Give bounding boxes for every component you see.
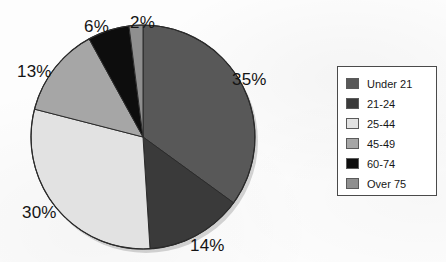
legend-color-swatch <box>346 178 359 189</box>
pie-slice-value-label: 30% <box>22 203 57 223</box>
pie-slice-value-label: 14% <box>190 236 225 256</box>
legend-color-swatch <box>346 138 359 149</box>
legend-item[interactable]: Over 75 <box>346 174 436 193</box>
legend-item-label: 45-49 <box>367 138 395 150</box>
pie-chart-figure: 35%14%30%13%6%2% Under 2121-2425-4445-49… <box>0 0 446 262</box>
legend-item-label: 60-74 <box>367 158 395 170</box>
legend-item-label: Over 75 <box>367 178 406 190</box>
legend-color-swatch <box>346 78 359 89</box>
legend-color-swatch <box>346 158 359 169</box>
chart-legend: Under 2121-2425-4445-4960-74Over 75 <box>337 66 437 196</box>
legend-item[interactable]: 21-24 <box>346 94 436 113</box>
legend-item-label: 21-24 <box>367 98 395 110</box>
legend-item[interactable]: 25-44 <box>346 114 436 133</box>
legend-item-label: 25-44 <box>367 118 395 130</box>
pie-slice-value-label: 35% <box>232 70 267 90</box>
pie-chart-plot-area: 35%14%30%13%6%2% <box>0 0 320 262</box>
pie-slice-value-label: 13% <box>17 62 52 82</box>
legend-item[interactable]: 45-49 <box>346 134 436 153</box>
legend-item-label: Under 21 <box>367 78 412 90</box>
legend-item[interactable]: Under 21 <box>346 74 436 93</box>
pie-slice-value-label: 2% <box>130 13 155 33</box>
legend-item[interactable]: 60-74 <box>346 154 436 173</box>
legend-color-swatch <box>346 98 359 109</box>
pie-slice-value-label: 6% <box>84 17 109 37</box>
legend-color-swatch <box>346 118 359 129</box>
